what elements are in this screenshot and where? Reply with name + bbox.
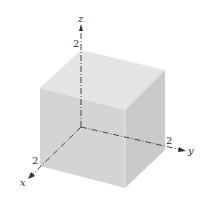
y-tick-label: 2 [166,136,172,146]
y-arrow-icon [178,147,186,152]
x-tick-label: 2 [32,156,38,166]
x-axis-label: x [20,178,26,188]
z-arrow-icon [79,24,83,31]
x-arrow-icon [28,172,35,179]
cube-diagram [0,0,201,201]
z-tick-label: 2 [73,39,79,49]
z-axis-label: z [78,14,83,24]
y-axis-label: y [188,146,194,156]
